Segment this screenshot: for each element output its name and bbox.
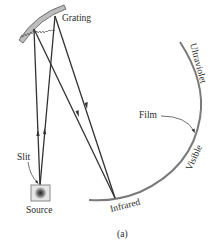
light-rays xyxy=(34,16,115,198)
film-leader xyxy=(161,116,194,131)
film-leader-arrow xyxy=(192,129,196,134)
spectrograph-diagram: Grating Slit Source Film Ultraviolet Vis… xyxy=(0,0,212,241)
label-grating: Grating xyxy=(62,13,91,23)
label-visible: Visible xyxy=(184,143,204,172)
label-source: Source xyxy=(26,205,52,215)
label-slit: Slit xyxy=(17,152,31,162)
source-box xyxy=(31,185,50,201)
grating xyxy=(19,5,66,43)
label-film: Film xyxy=(139,110,158,120)
ray-arrows xyxy=(36,102,88,136)
slit-leader xyxy=(28,162,38,183)
figure-caption: (a) xyxy=(117,229,128,240)
